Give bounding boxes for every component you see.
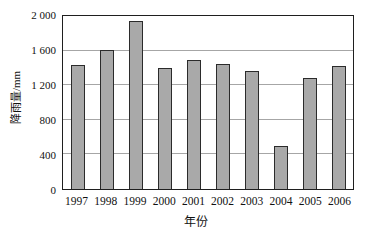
y-tick-label-800: 800: [0, 113, 56, 127]
y-tick-label-2000: 2 000: [0, 8, 56, 22]
bar-1998: [100, 50, 114, 189]
bar-2006: [332, 66, 346, 189]
x-axis-title: 年份: [50, 212, 342, 230]
bar-1997: [71, 65, 85, 189]
bar-1999: [129, 21, 143, 189]
bar-2003: [245, 71, 259, 189]
bar-2002: [216, 64, 230, 189]
x-tick-label-2005: 2005: [296, 195, 325, 208]
bars: [63, 16, 353, 189]
bar-2000: [158, 68, 172, 189]
x-tick-label-2006: 2006: [325, 195, 354, 208]
x-tick-labels: 1997199819992000200120022003200420052006: [62, 195, 354, 208]
x-tick-label-1997: 1997: [62, 195, 91, 208]
y-tick-label-0: 0: [0, 183, 56, 197]
y-axis-ticks: 04008001 2001 6002 000: [0, 15, 56, 190]
y-tick-label-400: 400: [0, 148, 56, 162]
x-tick-label-2002: 2002: [208, 195, 237, 208]
x-tick-label-2000: 2000: [150, 195, 179, 208]
bar-2001: [187, 60, 201, 189]
x-tick-label-2003: 2003: [237, 195, 266, 208]
bar-2004: [274, 146, 288, 189]
bar-2005: [303, 78, 317, 189]
x-tick-label-1999: 1999: [120, 195, 149, 208]
x-tick-label-1998: 1998: [91, 195, 120, 208]
plot-area: [62, 15, 354, 190]
y-tick-label-1200: 1 200: [0, 78, 56, 92]
x-tick-label-2001: 2001: [179, 195, 208, 208]
y-tick-label-1600: 1 600: [0, 43, 56, 57]
x-tick-label-2004: 2004: [266, 195, 295, 208]
rainfall-bar-chart: 降雨量/mm 04008001 2001 6002 000 1997199819…: [0, 0, 376, 239]
